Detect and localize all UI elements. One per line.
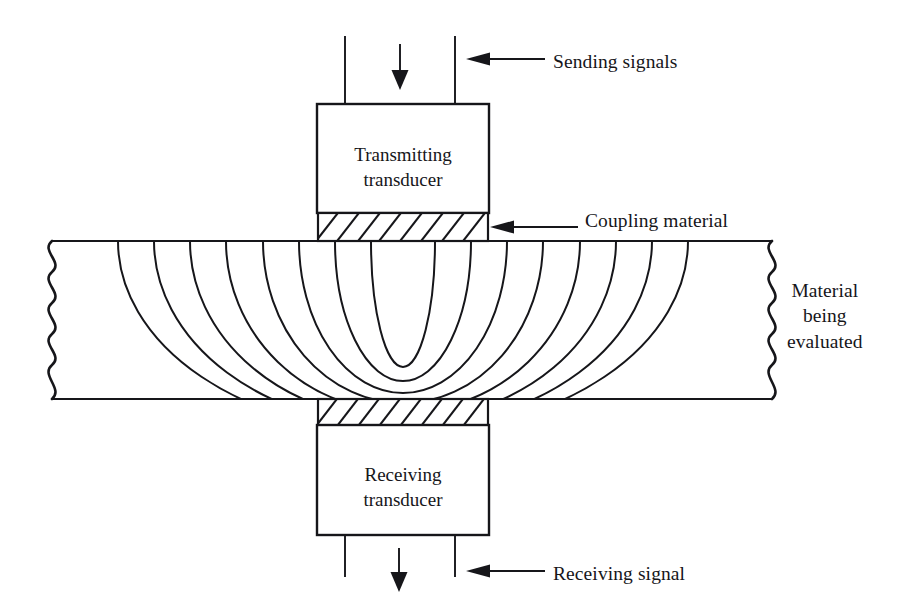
receiving-label-line-2: transducer [317,487,489,512]
material-being-evaluated-label: Material being evaluated [787,278,863,354]
receiving-signal-arrow-icon [466,565,545,578]
material-label-line-3: evaluated [787,329,863,354]
receiving-transducer-label: Receiving transducer [317,462,489,513]
bottom-flow-arrow-head [391,572,408,592]
receiving-label-line-1: Receiving [317,462,489,487]
transmitting-label-line-2: transducer [317,167,489,192]
top-flow-arrow-head [392,70,409,90]
wavefront-arc-4 [263,241,543,403]
top-coupling-material-band [313,209,488,245]
ultrasonic-testing-diagram: Sending signals Coupling material Receiv… [0,0,897,611]
top-flow-arrow-icon [392,44,409,90]
material-left-break-edge [49,241,56,399]
wavefront-arc-3 [299,241,507,393]
sending-signals-arrow-head [466,53,490,66]
material-being-evaluated-block [49,241,776,399]
bottom-signal-leads [345,536,455,577]
bottom-flow-arrow-icon [391,548,408,592]
diagram-canvas [0,0,897,611]
sending-signals-label: Sending signals [553,50,677,75]
coupling-material-arrow-icon [490,221,578,234]
material-label-line-1: Material [787,278,863,303]
material-label-line-2: being [787,303,863,328]
receiving-signal-label: Receiving signal [553,562,685,587]
receiving-signal-arrow-head [466,565,490,578]
sending-signals-arrow-icon [466,53,545,66]
material-right-break-edge [769,241,776,399]
transmitting-label-line-1: Transmitting [317,142,489,167]
coupling-material-arrow-head [490,221,514,234]
wavefront-arc-2 [335,241,471,381]
coupling-material-label: Coupling material [585,209,728,234]
transmitting-transducer-label: Transmitting transducer [317,142,489,193]
wavefront-arc-1 [371,241,435,367]
